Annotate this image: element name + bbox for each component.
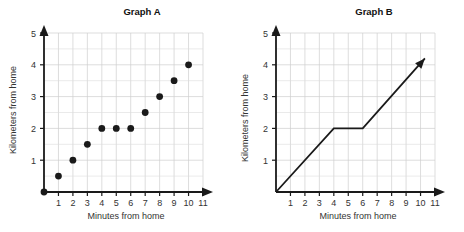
data-point: [84, 141, 91, 148]
y-tick-label: 2: [31, 124, 36, 134]
x-tick-label: 11: [198, 198, 207, 208]
graph-a-panel: Graph A 123456789101112345 Minutes from …: [0, 0, 232, 232]
x-tick-label: 4: [99, 198, 104, 208]
graph-b-tickmarks: [272, 33, 435, 196]
x-axis-arrow-icon: [202, 188, 213, 197]
x-tick-label: 6: [128, 198, 133, 208]
graph-b-panel: Graph B 123456789101112345 Minutes from …: [232, 0, 464, 232]
x-tick-label: 9: [404, 198, 409, 208]
y-tick-label: 3: [263, 92, 268, 102]
y-tick-label: 4: [263, 60, 268, 70]
y-tick-label: 2: [263, 124, 268, 134]
x-axis-arrow-icon: [434, 188, 445, 197]
x-tick-label: 3: [317, 198, 322, 208]
data-point: [98, 125, 105, 132]
graph-a-tickmarks: [40, 33, 203, 196]
graph-a-tick-labels: 123456789101112345: [31, 29, 208, 209]
graph-a-y-axis-label: Kilometers from home: [8, 66, 18, 154]
x-tick-label: 2: [302, 198, 307, 208]
data-point: [113, 125, 120, 132]
data-line-path: [276, 58, 425, 192]
y-tick-label: 3: [31, 92, 36, 102]
figure-two-graphs: Graph A 123456789101112345 Minutes from …: [0, 0, 464, 232]
graph-b-x-axis-label: Minutes from home: [319, 211, 396, 221]
y-axis-arrow-icon: [272, 25, 281, 36]
graph-a-x-axis-label: Minutes from home: [87, 211, 164, 221]
x-tick-label: 9: [172, 198, 177, 208]
x-tick-label: 10: [184, 198, 194, 208]
y-axis-arrow-icon: [40, 25, 49, 36]
x-tick-label: 5: [114, 198, 119, 208]
x-tick-label: 4: [331, 198, 336, 208]
data-point: [127, 125, 134, 132]
graph-b-tick-labels: 123456789101112345: [263, 29, 440, 209]
y-tick-label: 1: [31, 156, 36, 166]
x-tick-label: 8: [389, 198, 394, 208]
y-tick-label: 4: [31, 60, 36, 70]
data-point: [142, 109, 149, 116]
graph-b-axes: [272, 25, 446, 197]
graph-b-title: Graph B: [355, 6, 393, 17]
x-tick-label: 1: [56, 198, 61, 208]
graph-b-svg: Graph B 123456789101112345 Minutes from …: [232, 0, 464, 232]
x-tick-label: 10: [416, 198, 426, 208]
data-point: [41, 189, 48, 196]
data-point: [185, 61, 192, 68]
graph-a-gridlines: [44, 33, 203, 192]
data-point: [156, 93, 163, 100]
x-tick-label: 7: [375, 198, 380, 208]
x-tick-label: 5: [346, 198, 351, 208]
graph-a-svg: Graph A 123456789101112345 Minutes from …: [0, 0, 232, 232]
x-tick-label: 3: [85, 198, 90, 208]
graph-a-title: Graph A: [123, 6, 160, 17]
x-tick-label: 7: [143, 198, 148, 208]
x-tick-label: 8: [157, 198, 162, 208]
y-tick-label: 1: [263, 156, 268, 166]
x-tick-label: 11: [430, 198, 439, 208]
data-point: [70, 157, 77, 164]
graph-a-axes: [40, 25, 214, 197]
graph-b-gridlines: [276, 33, 435, 192]
x-tick-label: 1: [288, 198, 293, 208]
data-point: [55, 173, 62, 180]
data-point: [171, 77, 178, 84]
x-tick-label: 2: [70, 198, 75, 208]
y-tick-label: 5: [31, 29, 36, 39]
y-tick-label: 5: [263, 29, 268, 39]
graph-b-y-axis-label: Kilometers from home: [240, 74, 250, 162]
x-tick-label: 6: [360, 198, 365, 208]
graph-b-data-line: [276, 58, 425, 192]
